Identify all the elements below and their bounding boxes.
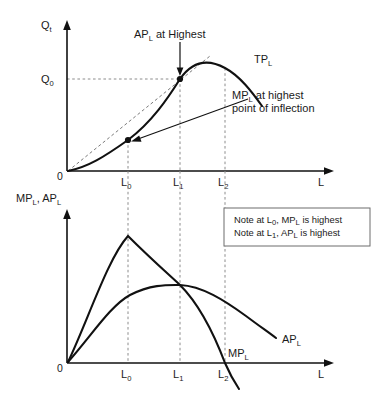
bottom-y-axis-label: MPL, APL: [16, 192, 61, 207]
top-x-axis-label: L: [318, 176, 324, 188]
bottom-origin-label: 0: [57, 362, 63, 374]
top-y-axis-arrow: [63, 20, 71, 30]
bottom-x-tick-label-L0: L0: [121, 368, 131, 383]
annotation-mp-inflection-line2: point of inflection: [232, 102, 315, 114]
bottom-x-tick-label-L1: L1: [173, 368, 183, 383]
top-y-tick-label-Q0: Q0: [41, 73, 54, 88]
bottom-x-tick-label-L2: L2: [218, 368, 228, 383]
inflection-point-marker: [125, 137, 131, 143]
mpl-curve: [68, 236, 239, 389]
top-x-axis-arrow: [324, 167, 334, 175]
top-y-axis-label: Qt: [41, 19, 53, 34]
top-chart: Qt Q0 0 L0 L1 L2 L TPL APL at Highest MP…: [41, 19, 334, 191]
top-x-tick-label-L2: L2: [218, 176, 228, 191]
tangency-point-marker: [177, 76, 183, 82]
economics-production-figure: Qt Q0 0 L0 L1 L2 L TPL APL at Highest MP…: [0, 0, 390, 396]
top-x-tick-label-L1: L1: [173, 176, 183, 191]
bottom-x-axis-arrow: [324, 359, 334, 367]
apl-curve-label: APL: [282, 333, 301, 348]
annotation-ap-highest: APL at Highest: [134, 28, 206, 43]
bottom-chart: MPL, APL 0 L0 L1 L2 L APL MPL Note at L0…: [16, 192, 370, 389]
bottom-y-axis-arrow: [63, 209, 71, 219]
mpl-curve-label: MPL: [228, 347, 249, 362]
tpl-curve: [68, 63, 262, 171]
top-origin-label: 0: [57, 170, 63, 182]
bottom-x-axis-label: L: [318, 368, 324, 380]
apl-curve: [68, 285, 276, 362]
inter-chart-guides: [128, 171, 225, 363]
tpl-curve-label: TPL: [254, 53, 272, 68]
top-x-tick-label-L0: L0: [121, 176, 131, 191]
figure-svg: Qt Q0 0 L0 L1 L2 L TPL APL at Highest MP…: [0, 0, 390, 396]
ray-from-origin: [68, 56, 210, 171]
